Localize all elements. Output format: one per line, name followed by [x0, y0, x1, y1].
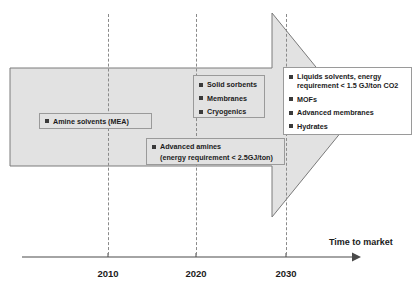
- tick-label-2020: 2020: [185, 268, 206, 279]
- square-bullet-icon: [289, 97, 293, 101]
- list-item: Advanced amines: [152, 142, 280, 151]
- list-item: Advanced membranes: [289, 108, 407, 117]
- axis-arrowhead: [352, 253, 361, 262]
- list-item-label: Hydrates: [297, 122, 328, 131]
- list-item-label: Advanced amines: [160, 142, 221, 151]
- advanced-amines-energy-requirement: (energy requirement < 2.5GJ/ton): [160, 153, 280, 162]
- list-item: Amine solvents (MEA): [45, 117, 129, 126]
- list-item: MOFs: [289, 95, 407, 104]
- square-bullet-icon: [289, 111, 293, 115]
- list-item-label: Membranes: [207, 94, 247, 103]
- callout-box-longterm-technologies: Liquids solvents, energy requirement < 1…: [283, 67, 412, 135]
- list-item-label: MOFs: [297, 95, 317, 104]
- square-bullet-icon: [289, 124, 293, 128]
- list-item: Liquids solvents, energy requirement < 1…: [289, 72, 407, 90]
- list-item-label: Cryogenics: [207, 107, 246, 116]
- square-bullet-icon: [199, 110, 203, 114]
- tick-label-2030: 2030: [275, 268, 296, 279]
- roadmap-figure: Amine solvents (MEA) Solid sorbents Memb…: [0, 0, 419, 297]
- list-item: Cryogenics: [199, 107, 260, 116]
- gridline-2020: [196, 14, 197, 255]
- axis-title: Time to market: [329, 237, 393, 247]
- tick-label-2010: 2010: [97, 268, 118, 279]
- square-bullet-icon: [199, 83, 203, 87]
- callout-box-advanced-amines: Advanced amines (energy requirement < 2.…: [146, 138, 285, 165]
- square-bullet-icon: [152, 145, 156, 149]
- list-item-label: Liquids solvents, energy requirement < 1…: [297, 72, 398, 90]
- list-item-label: Advanced membranes: [297, 108, 374, 117]
- list-item-label: Amine solvents (MEA): [53, 117, 129, 126]
- gridline-2010: [108, 14, 109, 255]
- square-bullet-icon: [289, 75, 293, 79]
- square-bullet-icon: [45, 119, 49, 123]
- list-item: Solid sorbents: [199, 80, 260, 89]
- square-bullet-icon: [199, 96, 203, 100]
- callout-box-amine-solvents: Amine solvents (MEA): [39, 113, 152, 129]
- callout-box-midterm-technologies: Solid sorbents Membranes Cryogenics: [193, 75, 265, 118]
- list-item: Membranes: [199, 94, 260, 103]
- list-item-label: Solid sorbents: [207, 80, 257, 89]
- list-item: Hydrates: [289, 122, 407, 131]
